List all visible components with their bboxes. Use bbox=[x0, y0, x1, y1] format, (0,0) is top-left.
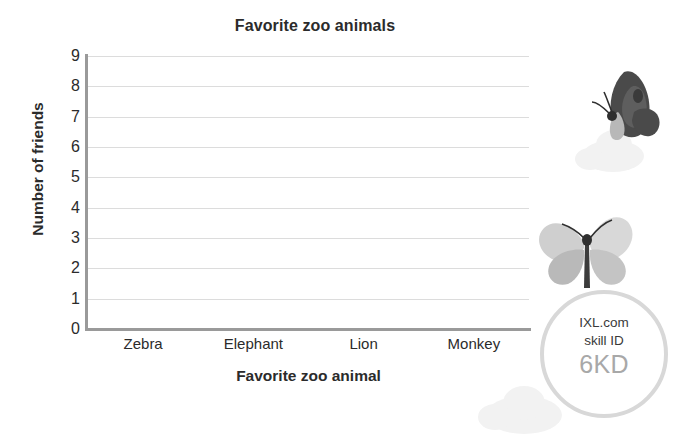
worksheet-page: Favorite zoo animals Number of friends 9… bbox=[0, 0, 690, 434]
x-axis-ticks: ZebraElephantLionMonkey bbox=[88, 334, 529, 358]
badge-skill-id: 6KD bbox=[540, 350, 668, 379]
x-tick-label-lion: Lion bbox=[309, 334, 419, 358]
gridline bbox=[88, 86, 529, 87]
y-tick-label: 4 bbox=[54, 200, 80, 216]
y-tick-label: 3 bbox=[54, 230, 80, 246]
y-tick-label: 7 bbox=[54, 109, 80, 125]
skill-id-badge: IXL.com skill ID 6KD bbox=[540, 290, 668, 418]
gridline bbox=[88, 299, 529, 300]
butterfly-dark-icon bbox=[584, 62, 676, 154]
gridline bbox=[88, 208, 529, 209]
gridline bbox=[88, 177, 529, 178]
gridline bbox=[88, 56, 529, 57]
badge-skill-label: skill ID bbox=[540, 332, 668, 350]
y-axis-line bbox=[85, 54, 88, 331]
y-tick-label: 0 bbox=[54, 321, 80, 337]
y-tick-label: 1 bbox=[54, 291, 80, 307]
y-axis-ticks: 9876543210 bbox=[50, 0, 80, 434]
x-tick-label-monkey: Monkey bbox=[419, 334, 529, 358]
y-axis-label: Number of friends bbox=[29, 69, 47, 269]
chart-title: Favorite zoo animals bbox=[0, 17, 630, 35]
badge-text-group: IXL.com skill ID 6KD bbox=[540, 314, 668, 379]
cloud-shape-bottom-c bbox=[478, 404, 512, 430]
y-tick-label: 2 bbox=[54, 260, 80, 276]
y-tick-label: 8 bbox=[54, 78, 80, 94]
x-tick-label-elephant: Elephant bbox=[198, 334, 308, 358]
badge-site-label: IXL.com bbox=[540, 314, 668, 332]
gridline bbox=[88, 238, 529, 239]
gridline bbox=[88, 147, 529, 148]
y-tick-label: 6 bbox=[54, 139, 80, 155]
x-axis-line bbox=[85, 328, 531, 331]
y-tick-label: 5 bbox=[54, 169, 80, 185]
y-tick-label: 9 bbox=[54, 48, 80, 64]
gridline bbox=[88, 268, 529, 269]
gridline bbox=[88, 117, 529, 118]
plot-area bbox=[88, 56, 529, 329]
x-tick-label-zebra: Zebra bbox=[88, 334, 198, 358]
x-axis-label: Favorite zoo animal bbox=[88, 367, 529, 385]
butterfly-light-icon bbox=[532, 206, 644, 302]
